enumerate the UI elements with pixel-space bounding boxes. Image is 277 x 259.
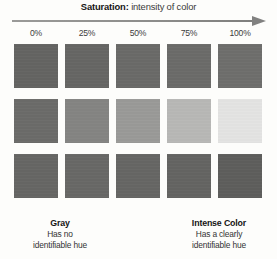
color-swatch — [65, 154, 109, 198]
arrow-shaft — [12, 20, 255, 22]
color-swatch — [14, 44, 58, 88]
color-swatch — [65, 99, 109, 143]
color-swatch — [218, 99, 262, 143]
swatch-row — [14, 99, 262, 143]
swatch-row — [14, 154, 262, 198]
color-swatch — [167, 44, 211, 88]
swatch-grid — [14, 44, 262, 198]
caption-gray: Gray Has no identifiable hue — [8, 218, 112, 250]
caption-intense-color: Intense Color Has a clearly identifiable… — [166, 218, 272, 250]
color-swatch — [14, 154, 58, 198]
caption-intense-color-title: Intense Color — [166, 218, 272, 229]
column-label-25: 25% — [65, 27, 109, 41]
color-swatch — [116, 44, 160, 88]
color-swatch — [167, 154, 211, 198]
caption-intense-color-line2: identifiable hue — [166, 240, 272, 251]
saturation-figure: Saturation: intensity of color 0% 25% 50… — [0, 0, 277, 259]
column-labels: 0% 25% 50% 75% 100% — [14, 27, 263, 41]
caption-intense-color-line1: Has a clearly — [166, 229, 272, 240]
color-swatch — [116, 154, 160, 198]
column-label-100: 100% — [218, 27, 262, 41]
column-label-0: 0% — [14, 27, 58, 41]
figure-title: Saturation: intensity of color — [0, 1, 277, 12]
figure-title-term: Saturation: — [81, 1, 129, 12]
color-swatch — [14, 99, 58, 143]
color-swatch — [116, 99, 160, 143]
caption-gray-line2: identifiable hue — [8, 240, 112, 251]
caption-gray-title: Gray — [8, 218, 112, 229]
figure-title-description: intensity of color — [131, 1, 196, 12]
color-swatch — [167, 99, 211, 143]
right-arrow-icon — [252, 16, 266, 26]
color-swatch — [218, 44, 262, 88]
color-swatch — [65, 44, 109, 88]
column-label-75: 75% — [167, 27, 211, 41]
color-swatch — [218, 154, 262, 198]
swatch-row — [14, 44, 262, 88]
saturation-axis-arrow — [12, 16, 267, 26]
column-label-50: 50% — [116, 27, 160, 41]
caption-gray-line1: Has no — [8, 229, 112, 240]
